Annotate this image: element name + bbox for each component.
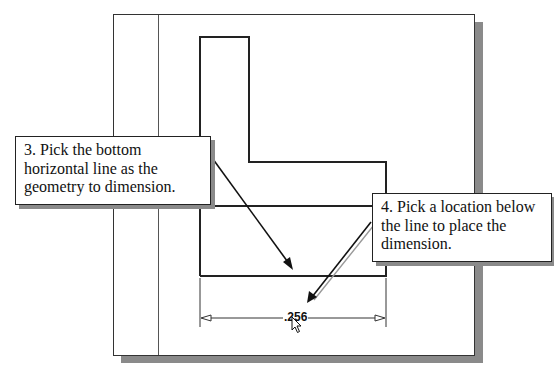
mouse-pointer-icon bbox=[291, 316, 303, 334]
callout-step-4: 4. Pick a location below the line to pla… bbox=[372, 193, 552, 262]
callout-step-3: 3. Pick the bottom horizontal line as th… bbox=[15, 136, 211, 205]
